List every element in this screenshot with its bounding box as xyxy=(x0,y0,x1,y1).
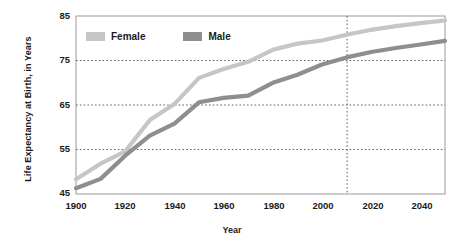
legend-swatch-female-icon xyxy=(86,32,105,41)
series-line-female xyxy=(76,21,445,180)
legend-item-female: Female xyxy=(86,31,145,42)
legend-item-male: Male xyxy=(183,31,230,42)
series-line-male xyxy=(76,41,445,188)
life-expectancy-chart: Life Expectancy at Birth, in Years Year … xyxy=(0,0,464,248)
chart-legend: Female Male xyxy=(86,31,231,42)
legend-label-female: Female xyxy=(111,31,145,42)
legend-label-male: Male xyxy=(208,31,230,42)
gridlines-horizontal xyxy=(76,61,445,150)
legend-swatch-male-icon xyxy=(183,32,202,41)
plot-area xyxy=(0,0,464,248)
